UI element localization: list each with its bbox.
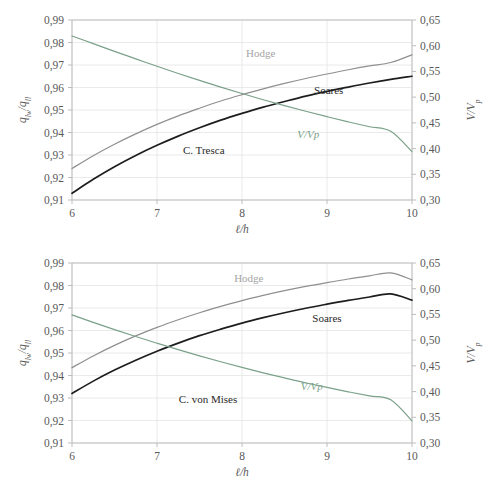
x-tick-label: 10 [406,450,418,462]
x-tick-label: 8 [239,450,245,462]
y-tick-label: 0,93 [44,149,64,162]
x-axis-ticks: 678910 [69,443,418,462]
plot-area-bottom: 0,910,920,930,940,950,960,970,980,990,30… [0,243,493,483]
y2-axis-title: V/Vp [465,342,482,363]
series-label-soares: Soares [314,84,343,96]
y2-tick-label: 0,50 [420,334,440,347]
y-tick-label: 0,95 [44,347,64,360]
series-label-v-vp: V/Vp [297,128,319,140]
x-tick-label: 8 [239,207,245,219]
y2-axis-title: V/Vp [465,99,482,120]
y2-tick-label: 0,35 [420,411,440,424]
y2-tick-label: 0,55 [420,65,440,78]
y-tick-label: 0,99 [44,14,64,27]
x-axis-title: ℓ/h [235,466,249,478]
y2-tick-label: 0,50 [420,91,440,104]
y-tick-label: 0,98 [44,280,64,293]
y-tick-label: 0,94 [44,370,64,383]
x-tick-label: 9 [324,450,330,462]
y-axis-left-ticks: 0,910,920,930,940,950,960,970,980,99 [44,257,72,450]
y-tick-label: 0,93 [44,392,64,405]
y-tick-label: 0,91 [44,194,64,207]
y-axis-left-ticks: 0,910,920,930,940,950,960,970,980,99 [44,14,72,207]
y-tick-label: 0,94 [44,127,64,140]
y2-tick-label: 0,45 [420,360,440,373]
series-label-c-von-mises: C. von Mises [179,393,237,405]
y2-tick-label: 0,65 [420,14,440,27]
x-tick-label: 7 [154,207,160,219]
x-axis-ticks: 678910 [69,200,418,219]
y-tick-label: 0,96 [44,325,64,338]
y-tick-label: 0,92 [44,415,64,428]
y-tick-label: 0,97 [44,302,64,315]
y-tick-label: 0,99 [44,257,64,270]
y-axis-right-ticks: 0,300,350,400,450,500,550,600,65 [412,257,440,450]
series-label-hodge: Hodge [246,47,275,59]
series-label-hodge: Hodge [234,272,263,284]
y2-tick-label: 0,60 [420,283,440,296]
x-tick-label: 9 [324,207,330,219]
x-axis-title: ℓ/h [235,223,249,235]
x-tick-label: 6 [69,207,75,219]
x-tick-label: 6 [69,450,75,462]
y-tick-label: 0,97 [44,59,64,72]
y2-tick-label: 0,30 [420,194,440,207]
y-tick-label: 0,98 [44,37,64,50]
chart-panel-bottom: 0,910,920,930,940,950,960,970,980,990,30… [0,243,493,483]
y-axis-title: qlw/qll [16,97,33,123]
y-tick-label: 0,92 [44,172,64,185]
x-tick-label: 10 [406,207,418,219]
y-tick-label: 0,91 [44,437,64,450]
y-tick-label: 0,96 [44,82,64,95]
y2-tick-label: 0,45 [420,117,440,130]
x-tick-label: 7 [154,450,160,462]
series-label-v-vp: V/Vp [301,380,323,392]
chart-panel-top: 0,910,920,930,940,950,960,970,980,990,30… [0,0,493,240]
y-axis-title: qlw/qll [16,340,33,366]
y2-tick-label: 0,40 [420,386,440,399]
y-tick-label: 0,95 [44,104,64,117]
y2-tick-label: 0,65 [420,257,440,270]
y2-tick-label: 0,55 [420,308,440,321]
y-axis-right-ticks: 0,300,350,400,450,500,550,600,65 [412,14,440,207]
plot-area-top: 0,910,920,930,940,950,960,970,980,990,30… [0,0,493,240]
y2-tick-label: 0,40 [420,143,440,156]
series-label-soares: Soares [312,312,341,324]
series-label-c-tresca: C. Tresca [183,144,225,156]
y2-tick-label: 0,30 [420,437,440,450]
y2-tick-label: 0,35 [420,168,440,181]
figure-root: 0,910,920,930,940,950,960,970,980,990,30… [0,0,493,485]
y2-tick-label: 0,60 [420,40,440,53]
